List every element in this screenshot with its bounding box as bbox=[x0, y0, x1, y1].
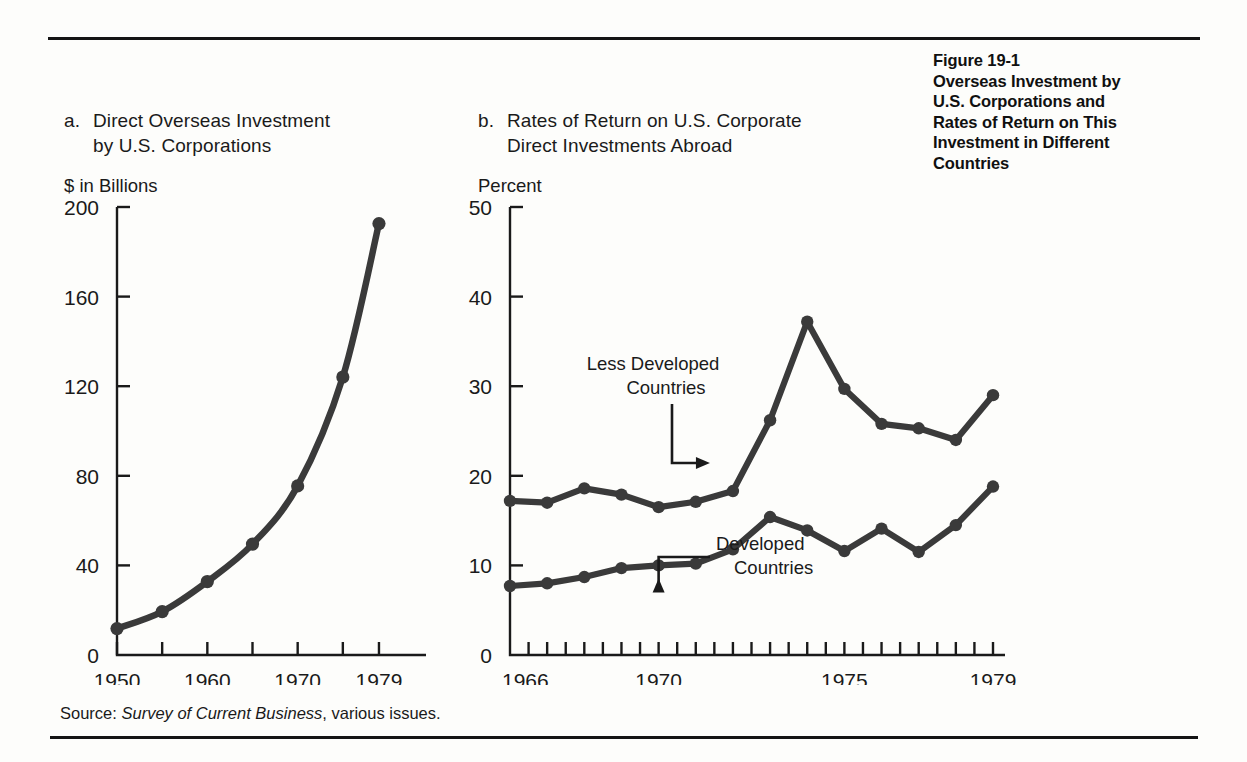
panel-a-marker: a. bbox=[64, 108, 80, 133]
source-title: Survey of Current Business bbox=[121, 704, 322, 722]
figure-caption-line-1: Overseas Investment by bbox=[933, 71, 1195, 92]
chart-a-ytick-label: 160 bbox=[64, 286, 99, 309]
chart-b-xtick-label: 1966 bbox=[502, 669, 549, 685]
chart-b-ytick-label: 50 bbox=[469, 196, 492, 219]
annotation-ldc-arrow-icon bbox=[696, 457, 710, 469]
panel-b-title-line2: Direct Investments Abroad bbox=[478, 133, 802, 158]
chart-b-data-point bbox=[727, 485, 739, 497]
panel-a-title-line1: Direct Overseas Investment bbox=[64, 108, 330, 133]
chart-panel-b: 010203040501966197019751979Less Develope… bbox=[448, 185, 1048, 685]
source-line: Source: Survey of Current Business, vari… bbox=[60, 704, 441, 723]
chart-b-ytick-label: 0 bbox=[480, 644, 492, 667]
chart-b-data-point bbox=[652, 501, 664, 513]
chart-b-ytick-label: 10 bbox=[469, 554, 492, 577]
figure-caption-line-4: Investment in Different bbox=[933, 132, 1195, 153]
figure-caption-line-5: Countries bbox=[933, 153, 1195, 174]
chart-b-data-point bbox=[690, 557, 702, 569]
chart-b-svg: 010203040501966197019751979Less Develope… bbox=[448, 185, 1048, 685]
figure-caption-line-3: Rates of Return on This bbox=[933, 112, 1195, 133]
chart-b-data-point bbox=[987, 480, 999, 492]
chart-b-ytick-label: 20 bbox=[469, 465, 492, 488]
chart-b-data-point bbox=[764, 511, 776, 523]
chart-a-data-point bbox=[372, 217, 385, 230]
chart-b-data-point bbox=[764, 414, 776, 426]
figure-page: Figure 19-1 Overseas Investment by U.S. … bbox=[0, 0, 1247, 762]
chart-b-data-point bbox=[950, 434, 962, 446]
chart-b-data-point bbox=[838, 383, 850, 395]
chart-a-ytick-label: 120 bbox=[64, 375, 99, 398]
bottom-rule bbox=[50, 736, 1198, 739]
chart-b-data-point bbox=[875, 522, 887, 534]
chart-b-data-point bbox=[578, 571, 590, 583]
panel-a-title: a. Direct Overseas Investment by U.S. Co… bbox=[64, 108, 330, 158]
annotation-dc-line2: Countries bbox=[734, 557, 813, 578]
chart-b-data-point bbox=[690, 496, 702, 508]
chart-a-data-point bbox=[246, 538, 259, 551]
source-prefix: Source: bbox=[60, 704, 117, 722]
chart-b-data-point bbox=[987, 389, 999, 401]
figure-caption-line-0: Figure 19-1 bbox=[933, 50, 1195, 71]
chart-a-ytick-label: 200 bbox=[64, 196, 99, 219]
chart-a-data-line bbox=[117, 224, 379, 629]
annotation-ldc-line2: Countries bbox=[626, 377, 705, 398]
panel-b-title-line1: Rates of Return on U.S. Corporate bbox=[478, 108, 802, 133]
chart-b-series-line-0 bbox=[510, 322, 993, 507]
chart-a-xtick-label: 1970 bbox=[274, 669, 321, 685]
chart-a-ytick-label: 0 bbox=[87, 644, 99, 667]
annotation-dc-arrow-icon bbox=[653, 578, 665, 592]
top-rule bbox=[48, 37, 1200, 40]
chart-a-data-point bbox=[336, 370, 349, 383]
chart-a-xtick-label: 1950 bbox=[94, 669, 141, 685]
chart-b-data-point bbox=[838, 545, 850, 557]
chart-b-data-point bbox=[875, 418, 887, 430]
chart-b-ytick-label: 30 bbox=[469, 375, 492, 398]
figure-caption-line-2: U.S. Corporations and bbox=[933, 91, 1195, 112]
chart-b-xtick-label: 1979 bbox=[970, 669, 1017, 685]
chart-a-data-point bbox=[291, 479, 304, 492]
chart-a-ytick-label: 80 bbox=[76, 465, 99, 488]
chart-b-data-point bbox=[615, 488, 627, 500]
chart-a-xtick-label: 1979 bbox=[356, 669, 403, 685]
chart-a-data-point bbox=[110, 622, 123, 635]
chart-a-svg: 040801201602001950196019701979 bbox=[48, 185, 448, 685]
chart-b-data-point bbox=[912, 546, 924, 558]
chart-a-data-point bbox=[156, 605, 169, 618]
chart-a-xtick-label: 1960 bbox=[184, 669, 231, 685]
annotation-ldc-line1: Less Developed bbox=[587, 353, 720, 374]
panel-a-title-line2: by U.S. Corporations bbox=[64, 133, 330, 158]
chart-panel-a: 040801201602001950196019701979 bbox=[48, 185, 448, 685]
annotation-ldc-leader bbox=[672, 404, 698, 463]
annotation-dc-line1: Developed bbox=[716, 533, 804, 554]
chart-b-data-point bbox=[504, 580, 516, 592]
figure-caption: Figure 19-1 Overseas Investment by U.S. … bbox=[933, 50, 1195, 174]
source-suffix: , various issues. bbox=[322, 704, 440, 722]
chart-b-data-point bbox=[801, 315, 813, 327]
chart-b-data-point bbox=[541, 496, 553, 508]
chart-b-data-point bbox=[615, 562, 627, 574]
chart-b-data-point bbox=[912, 422, 924, 434]
chart-b-xtick-label: 1975 bbox=[821, 669, 868, 685]
chart-a-ytick-label: 40 bbox=[76, 554, 99, 577]
chart-a-axis-lines bbox=[117, 207, 426, 655]
panel-b-title: b. Rates of Return on U.S. Corporate Dir… bbox=[478, 108, 802, 158]
chart-b-data-point bbox=[504, 495, 516, 507]
chart-b-data-point bbox=[578, 482, 590, 494]
chart-a-data-point bbox=[201, 575, 214, 588]
chart-b-xtick-label: 1970 bbox=[635, 669, 682, 685]
chart-b-ytick-label: 40 bbox=[469, 286, 492, 309]
panel-b-marker: b. bbox=[478, 108, 494, 133]
chart-b-data-point bbox=[950, 519, 962, 531]
chart-b-data-point bbox=[541, 577, 553, 589]
